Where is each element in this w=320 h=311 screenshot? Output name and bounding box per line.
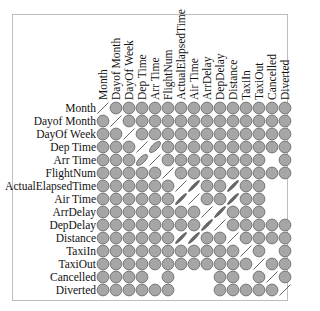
- diagonal-line-icon: [98, 103, 109, 114]
- circle-glyph-icon: [97, 128, 109, 140]
- circle-glyph-icon: [175, 206, 187, 218]
- matrix-cell: [227, 219, 239, 231]
- circle-glyph-icon: [149, 167, 161, 179]
- circle-glyph-icon: [240, 141, 252, 153]
- matrix-cell: [111, 116, 122, 127]
- matrix-cell: [240, 232, 252, 244]
- row-label: Dep Time: [50, 141, 96, 154]
- diagonal-line-icon: [176, 181, 187, 192]
- circle-glyph-icon: [136, 167, 148, 179]
- row-label: Diverted: [56, 284, 96, 296]
- matrix-cell: [214, 141, 226, 153]
- circle-glyph-icon: [201, 141, 213, 153]
- circle-glyph-icon: [110, 102, 122, 114]
- matrix-cell: [253, 128, 265, 140]
- circle-glyph-icon: [149, 232, 161, 244]
- circle-glyph-icon: [279, 232, 291, 244]
- circle-glyph-icon: [175, 141, 187, 153]
- matrix-cell: [110, 219, 122, 231]
- matrix-cell: [215, 220, 226, 231]
- column-label: Distance: [227, 60, 239, 100]
- matrix-cell: [123, 271, 135, 283]
- matrix-cell: [110, 128, 122, 140]
- ellipse-glyph-icon: [148, 140, 162, 154]
- circle-glyph-icon: [123, 284, 135, 296]
- circle-glyph-icon: [253, 167, 265, 179]
- diagonal-line-icon: [254, 259, 265, 270]
- row-label: DepDelay: [49, 219, 96, 232]
- matrix-cell: [188, 102, 200, 114]
- ellipse-glyph-icon: [135, 153, 149, 167]
- circle-glyph-icon: [162, 193, 174, 205]
- matrix-cell: [240, 258, 252, 270]
- matrix-cell: [163, 168, 174, 179]
- matrix-cell: [136, 245, 148, 257]
- matrix-cell: [137, 142, 148, 153]
- diagonal-line-icon: [189, 194, 200, 205]
- circle-glyph-icon: [240, 115, 252, 127]
- matrix-cell: [188, 154, 200, 166]
- circle-glyph-icon: [149, 102, 161, 114]
- circle-glyph-icon: [266, 219, 278, 231]
- circle-glyph-icon: [240, 154, 252, 166]
- matrix-cell: [175, 245, 187, 257]
- circle-glyph-icon: [97, 180, 109, 192]
- matrix-cell: [110, 245, 122, 257]
- matrix-cell: [110, 167, 122, 179]
- circle-glyph-icon: [123, 167, 135, 179]
- circle-glyph-icon: [162, 206, 174, 218]
- circle-glyph-icon: [253, 102, 265, 114]
- matrix-cell: [253, 271, 265, 283]
- circle-glyph-icon: [162, 180, 174, 192]
- circle-glyph-icon: [188, 141, 200, 153]
- matrix-cell: [98, 103, 109, 114]
- circle-glyph-icon: [227, 128, 239, 140]
- matrix-cell: [148, 140, 162, 154]
- circle-glyph-icon: [227, 284, 239, 296]
- matrix-cell: [149, 284, 161, 296]
- circle-glyph-icon: [110, 245, 122, 257]
- circle-glyph-icon: [253, 245, 265, 257]
- circle-glyph-icon: [162, 141, 174, 153]
- circle-glyph-icon: [162, 102, 174, 114]
- circle-glyph-icon: [188, 167, 200, 179]
- circle-glyph-icon: [110, 167, 122, 179]
- circle-glyph-icon: [123, 271, 135, 283]
- matrix-cell: [253, 167, 265, 179]
- matrix-cell: [267, 272, 278, 283]
- column-label: ActualElapsedTime: [175, 9, 188, 100]
- matrix-cell: [201, 245, 213, 257]
- circle-glyph-icon: [201, 258, 213, 270]
- matrix-cell: [189, 194, 200, 205]
- column-label: Diverted: [279, 60, 291, 100]
- circle-glyph-icon: [188, 102, 200, 114]
- matrix-cell: [240, 102, 252, 114]
- matrix-cell: [162, 206, 174, 218]
- circle-glyph-icon: [201, 115, 213, 127]
- circle-glyph-icon: [201, 180, 213, 192]
- diagonal-line-icon: [111, 116, 122, 127]
- column-label: Dep Time: [136, 54, 149, 100]
- matrix-cell: [214, 271, 226, 283]
- circle-glyph-icon: [227, 115, 239, 127]
- circle-glyph-icon: [240, 102, 252, 114]
- circle-glyph-icon: [149, 115, 161, 127]
- matrix-cell: [240, 206, 252, 218]
- matrix-cell: [214, 154, 226, 166]
- matrix-cell: [123, 193, 135, 205]
- matrix-cell: [266, 258, 278, 270]
- matrix-cell: [253, 102, 265, 114]
- matrix-cell: [227, 284, 239, 296]
- circle-glyph-icon: [110, 154, 122, 166]
- row-label: Arr Time: [54, 154, 97, 166]
- column-label: TaxiOut: [253, 62, 265, 100]
- matrix-cell: [162, 102, 174, 114]
- circle-glyph-icon: [123, 245, 135, 257]
- matrix-cell: [240, 128, 252, 140]
- matrix-cell: [227, 258, 239, 270]
- diagonal-line-icon: [137, 142, 148, 153]
- circle-glyph-icon: [201, 245, 213, 257]
- circle-glyph-icon: [188, 206, 200, 218]
- circle-glyph-icon: [162, 219, 174, 231]
- circle-glyph-icon: [214, 154, 226, 166]
